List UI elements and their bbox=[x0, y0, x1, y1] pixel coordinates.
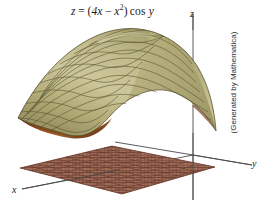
surface-plot-figure: z=(4x−x2)cos y x y z (Generated by Mathe… bbox=[0, 0, 270, 211]
equation-minus: − bbox=[103, 5, 115, 17]
x-axis-label: x bbox=[12, 184, 16, 195]
y-axis-label: y bbox=[252, 158, 256, 169]
y-axis-front bbox=[193, 155, 252, 165]
equation-term1: 4x bbox=[91, 5, 102, 17]
z-axis-label: z bbox=[190, 8, 194, 19]
equation-equals: = bbox=[76, 5, 88, 17]
generated-by-credit: (Generated by Mathematica) bbox=[229, 8, 238, 158]
equation-lhs: z bbox=[71, 5, 76, 17]
surface-dome bbox=[18, 28, 216, 136]
equation-arg: y bbox=[149, 5, 154, 17]
equation-trig: cos bbox=[128, 5, 146, 17]
